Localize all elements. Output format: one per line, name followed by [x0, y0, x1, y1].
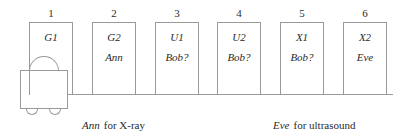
train-car-5: X1 Bob?	[280, 22, 324, 95]
car-code-2: G2	[93, 31, 135, 43]
caption-eve-text: for ultrasound	[293, 119, 355, 131]
rail-line	[68, 94, 393, 95]
car-person-4: Bob?	[218, 51, 260, 63]
caption-eve-subject: Eve	[273, 119, 289, 131]
car-person-3: Bob?	[156, 51, 198, 63]
train-car-3: U1 Bob?	[155, 22, 199, 95]
caption-ann-subject: Ann	[82, 119, 100, 131]
locomotive-wheel-rear-icon	[49, 108, 61, 115]
locomotive-body	[20, 70, 68, 109]
caption-ann-text: for X-ray	[104, 119, 145, 131]
caption-eve: Evefor ultrasound	[273, 119, 356, 132]
car-code-1: G1	[30, 31, 72, 43]
car-person-2: Ann	[93, 51, 135, 63]
caption-ann: Annfor X-ray	[82, 119, 145, 132]
position-number-4: 4	[217, 7, 261, 19]
car-person-5: Bob?	[281, 51, 323, 63]
position-number-6: 6	[343, 7, 387, 19]
car-code-6: X2	[344, 31, 386, 43]
train-car-6: X2 Eve	[343, 22, 387, 95]
position-number-1: 1	[29, 7, 73, 19]
train-diagram: 1 2 3 4 5 6 G1 G2 Ann U1 Bob? U2 Bob? X1…	[0, 0, 409, 140]
position-number-3: 3	[155, 7, 199, 19]
position-number-2: 2	[92, 7, 136, 19]
car-code-4: U2	[218, 31, 260, 43]
train-car-4: U2 Bob?	[217, 22, 261, 95]
car-code-3: U1	[156, 31, 198, 43]
locomotive-wheel-front-icon	[26, 108, 38, 115]
car-person-6: Eve	[344, 51, 386, 63]
car-code-5: X1	[281, 31, 323, 43]
position-number-5: 5	[280, 7, 324, 19]
train-car-2: G2 Ann	[92, 22, 136, 95]
